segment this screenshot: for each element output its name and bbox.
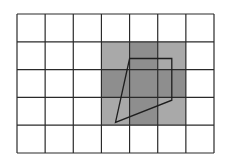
shaded-cell bbox=[101, 42, 129, 70]
shaded-region bbox=[101, 42, 185, 125]
shaded-cell bbox=[130, 42, 158, 70]
grid-diagram bbox=[0, 0, 227, 164]
shaded-cell bbox=[101, 70, 129, 98]
shaded-cell bbox=[158, 97, 186, 125]
shaded-cell bbox=[130, 70, 158, 98]
